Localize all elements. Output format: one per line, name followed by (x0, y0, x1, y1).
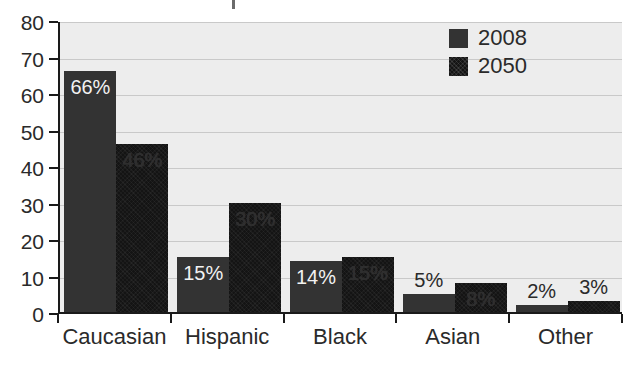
bar-black-2008: 14% (290, 261, 342, 312)
legend-label-2050: 2050 (478, 55, 527, 77)
bar-value-label: 8% (455, 289, 507, 309)
bar-value-label: 15% (177, 263, 229, 283)
x-axis-label: Asian (425, 326, 480, 348)
bar-hispanic-2050: 30% (229, 203, 281, 313)
bar-black-2050: 15% (342, 257, 394, 312)
bar-value-label: 3% (568, 277, 620, 297)
x-tick-mark (57, 314, 59, 323)
x-axis-label: Hispanic (185, 326, 269, 348)
y-tick-mark (49, 21, 58, 23)
bar-value-label: 5% (403, 270, 455, 290)
bar-value-label: 15% (342, 263, 394, 283)
legend-swatch-2008 (449, 29, 468, 48)
legend-item-2050: 2050 (449, 52, 569, 80)
y-axis: 01020304050607080 (0, 0, 58, 314)
gridline (60, 95, 622, 96)
y-tick-mark (49, 277, 58, 279)
y-tick-label: 10 (21, 267, 44, 288)
bar-chart: 01020304050607080 66%46%15%30%14%15%5%8%… (0, 0, 637, 368)
y-tick-mark (49, 94, 58, 96)
legend-swatch-2050 (449, 57, 468, 76)
legend-label-2008: 2008 (478, 27, 527, 49)
bar-value-label: 30% (229, 209, 281, 229)
y-tick-label: 40 (21, 158, 44, 179)
x-tick-mark (508, 314, 510, 323)
legend-item-2008: 2008 (449, 24, 569, 52)
bar-value-label: 66% (64, 77, 116, 97)
bar-value-label: 14% (290, 267, 342, 287)
gridline (60, 22, 622, 23)
gridline (60, 132, 622, 133)
bar-other-2008: 2% (516, 305, 568, 312)
x-tick-mark (395, 314, 397, 323)
x-tick-mark (283, 314, 285, 323)
bar-asian-2050: 8% (455, 283, 507, 312)
bar-value-label: 2% (516, 281, 568, 301)
bar-other-2050: 3% (568, 301, 620, 312)
bar-asian-2008: 5% (403, 294, 455, 312)
y-tick-label: 50 (21, 121, 44, 142)
y-tick-label: 70 (21, 48, 44, 69)
y-tick-mark (49, 240, 58, 242)
chart-legend: 2008 2050 (449, 24, 569, 80)
bar-caucasian-2050: 46% (116, 144, 168, 312)
x-axis-label: Caucasian (62, 326, 166, 348)
x-axis-label: Black (313, 326, 367, 348)
bar-hispanic-2008: 15% (177, 257, 229, 312)
x-axis-label: Other (538, 326, 593, 348)
y-tick-mark (49, 58, 58, 60)
bar-caucasian-2008: 66% (64, 71, 116, 312)
scan-artifact (232, 0, 235, 9)
y-tick-label: 20 (21, 231, 44, 252)
y-tick-mark (49, 167, 58, 169)
bar-value-label: 46% (116, 150, 168, 170)
y-tick-label: 0 (32, 304, 44, 325)
x-tick-mark (621, 314, 623, 323)
y-tick-mark (49, 204, 58, 206)
x-tick-mark (170, 314, 172, 323)
y-tick-label: 60 (21, 85, 44, 106)
y-tick-label: 80 (21, 12, 44, 33)
y-tick-mark (49, 131, 58, 133)
y-tick-label: 30 (21, 194, 44, 215)
